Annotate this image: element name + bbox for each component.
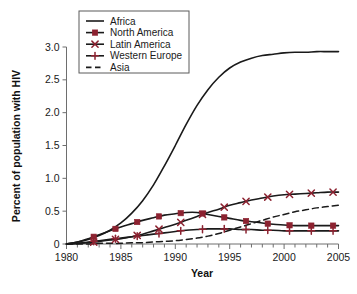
hiv-prevalence-line-chart: 00.51.01.52.02.53.0 19801985199019952000… <box>0 0 357 294</box>
data-marker-north-america <box>156 214 161 219</box>
x-axis-title: Year <box>191 267 213 279</box>
x-axis-tick-label: 2000 <box>272 251 296 263</box>
y-axis-tick-label: 1.5 <box>45 139 60 151</box>
legend-label: Africa <box>110 16 136 27</box>
data-marker-north-america <box>265 221 270 226</box>
data-marker-north-america <box>222 215 227 220</box>
legend-marker-square <box>92 30 97 35</box>
y-axis-tick-label: 2.0 <box>45 106 60 118</box>
y-axis-tick-label: 1.0 <box>45 172 60 184</box>
data-marker-north-america <box>243 218 248 223</box>
y-axis-title: Percent of population with HIV <box>10 70 22 222</box>
legend-label: North America <box>110 27 174 38</box>
legend-label: Asia <box>110 62 130 73</box>
legend-label: Western Europe <box>110 50 183 61</box>
data-marker-north-america <box>113 226 118 231</box>
chart-legend: AfricaNorth AmericaLatin AmericaWestern … <box>79 11 189 73</box>
y-axis-tick-label: 2.5 <box>45 73 60 85</box>
y-axis-tick-label: 0 <box>54 238 60 250</box>
x-axis-tick-label: 1980 <box>55 251 79 263</box>
chart-figure: 00.51.01.52.02.53.0 19801985199019952000… <box>0 0 357 294</box>
x-axis-tick-label: 2005 <box>327 251 351 263</box>
x-axis-tick-label: 1995 <box>218 251 242 263</box>
y-axis-tick-label: 0.5 <box>45 205 60 217</box>
data-marker-north-america <box>178 210 183 215</box>
x-axis-tick-label: 1985 <box>109 251 133 263</box>
legend-label: Latin America <box>110 39 171 50</box>
y-axis-tick-label: 3.0 <box>45 41 60 53</box>
x-axis-tick-label: 1990 <box>164 251 188 263</box>
data-marker-north-america <box>135 219 140 224</box>
